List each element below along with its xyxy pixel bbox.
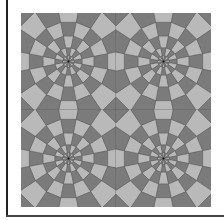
web-pattern bbox=[21, 13, 211, 207]
frame-left-border bbox=[6, 0, 8, 216]
frame-bottom-border bbox=[6, 215, 224, 217]
